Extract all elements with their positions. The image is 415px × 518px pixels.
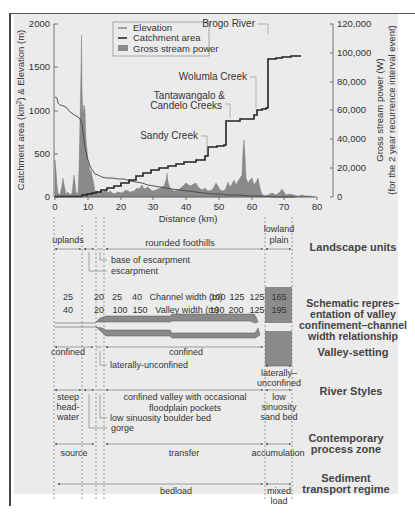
x-tick: 70	[279, 201, 290, 212]
channel-width-value: 125	[249, 292, 264, 302]
row-process-zone: source transfer accumulation Contemporar…	[55, 432, 384, 458]
x-tick: 50	[214, 201, 225, 212]
row-title-sediment-2: transport regime	[302, 483, 389, 495]
label-uplands: uplands	[52, 235, 84, 245]
annotation-candelo: Candelo Creeks	[150, 100, 222, 111]
y-left-tick: 1500	[29, 61, 50, 72]
label-rounded-foothills: rounded foothills	[145, 237, 215, 248]
y-right-tick: 100,000	[337, 47, 371, 58]
label-laterally-unconfined-2: unconfined	[257, 378, 301, 388]
row-title-valley-setting: Valley-setting	[318, 346, 389, 358]
channel-width-value: 25	[63, 292, 73, 302]
label-steep-1: steep	[57, 392, 79, 402]
valley-width-value: 190	[209, 305, 224, 315]
valley-wall-upper	[96, 314, 258, 323]
label-load: load	[270, 496, 287, 506]
label-plain: plain	[269, 235, 288, 245]
label-boulder-bed: low sinuosity boulder bed	[110, 413, 211, 423]
y-right-tick: 80,000	[337, 76, 366, 87]
x-tick: 80	[312, 201, 323, 212]
label-source: source	[60, 448, 87, 458]
x-tick: 60	[247, 201, 258, 212]
power-legend-swatch	[118, 45, 128, 51]
annotation-sandy: Sandy Creek	[140, 130, 199, 141]
y-left-tick: 2000	[29, 18, 50, 29]
valley-width-value: 100	[112, 305, 127, 315]
annotation-brogo: Brogo River	[202, 18, 255, 29]
label-confined-valley-2: floodplain pockets	[149, 403, 222, 413]
valley-width-value: 125	[249, 305, 264, 315]
channel-width-value: 100	[210, 292, 225, 302]
y-left-tick: 500	[34, 148, 50, 159]
valley-width-value: 20	[94, 305, 104, 315]
row-title-schematic-4: width relationship	[307, 330, 398, 342]
legend-catchment: Catchment area	[133, 32, 201, 43]
y-left-axis-label: Catchment area (km2) & Elevation (m)	[15, 30, 26, 190]
label-escarpment: escarpment	[111, 266, 159, 276]
label-steep-3: water	[56, 412, 79, 422]
valley-width-value: 195	[271, 305, 286, 315]
lowland-floodplain-block	[265, 331, 292, 366]
y-right-tick: 60,000	[337, 104, 366, 115]
row-title-river-styles: River Styles	[320, 385, 383, 397]
x-tick: 10	[83, 201, 94, 212]
row-valley-setting: confined confined laterally-unconfined l…	[51, 346, 388, 388]
label-bedload: bedload	[160, 486, 192, 496]
channel-width-value: 40	[132, 292, 142, 302]
channel-width-value: 25	[112, 292, 122, 302]
x-tick: 20	[116, 201, 127, 212]
label-steep-2: head-	[56, 402, 79, 412]
valley-width-value: 40	[63, 305, 73, 315]
label-accumulation: accumulation	[251, 448, 304, 458]
label-sand-1: low	[272, 392, 286, 402]
channel-width-value: 20	[94, 292, 104, 302]
y-right-axis-label-1: Gross stream power (W)	[374, 58, 385, 161]
y-right-tick: 0	[337, 191, 342, 202]
label-sand-3: sand bed	[260, 412, 297, 422]
y-right-tick: 120,000	[337, 18, 371, 29]
row-title-process-zone-2: process zone	[311, 443, 381, 455]
valley-width-value: 200	[228, 305, 243, 315]
valley-width-value: 150	[132, 305, 147, 315]
label-confined-upper: confined	[51, 347, 85, 357]
y-right-tick: 40,000	[337, 133, 366, 144]
label-transfer: transfer	[169, 448, 200, 458]
label-sand-2: sinuosity	[261, 402, 297, 412]
label-laterally-unconfined-1: laterally–	[261, 368, 297, 378]
legend-power: Gross stream power	[133, 43, 219, 54]
chart: 2000 1500 1000 500 0 120,000 100,000 80,…	[15, 18, 397, 224]
label-laterally-unconfined-gorge: laterally-unconfined	[110, 360, 188, 370]
y-left-tick: 0	[45, 191, 50, 202]
y-left-tick: 1000	[29, 105, 50, 116]
x-tick: 30	[148, 201, 159, 212]
annotation-wolumla: Wolumla Creek	[179, 71, 248, 82]
x-axis-label: Distance (km)	[159, 213, 218, 224]
label-lowland: lowland	[264, 224, 295, 234]
label-confined-valley-1: confined valley with occasional	[123, 392, 246, 402]
label-mixed: mixed	[267, 486, 291, 496]
label-gorge: gorge	[111, 423, 134, 433]
x-tick: 0	[52, 201, 57, 212]
y-right-tick: 20,000	[337, 162, 366, 173]
label-confined-main: confined	[169, 347, 203, 357]
x-tick: 40	[181, 201, 192, 212]
label-base-of-escarpment: base of escarpment	[111, 255, 191, 265]
row-title-landscape-units: Landscape units	[310, 241, 397, 253]
row-sediment-regime: bedload mixed load Sediment transport re…	[58, 472, 390, 506]
channel-width-value: 165	[271, 292, 286, 302]
valley-wall-lower	[96, 327, 260, 338]
y-right-axis-label-2: (for the 2 year recurrence interval even…	[386, 25, 397, 195]
channel-width-value: 125	[229, 292, 244, 302]
